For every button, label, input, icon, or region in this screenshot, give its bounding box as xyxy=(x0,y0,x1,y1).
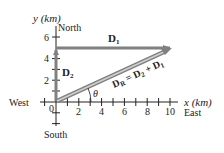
north-label: North xyxy=(58,22,81,33)
x-tick-2: 2 xyxy=(76,106,81,117)
y-axis-label: y (km) xyxy=(32,12,61,25)
x-tick-8: 8 xyxy=(145,106,150,117)
south-label: South xyxy=(44,129,67,140)
d1-label: D1 xyxy=(108,32,120,46)
y-tick-2: 2 xyxy=(44,75,49,86)
d2-label: D2 xyxy=(62,66,74,80)
x-tick-4: 4 xyxy=(99,106,104,117)
vector-diagram: y (km) North 6 4 2 West 0 2 4 6 8 10 x (… xyxy=(0,0,224,153)
x-tick-10: 10 xyxy=(165,106,175,117)
y-tick-4: 4 xyxy=(44,53,49,64)
west-label: West xyxy=(9,97,29,108)
origin-label: 0 xyxy=(49,103,54,114)
x-tick-6: 6 xyxy=(122,106,127,117)
east-label: East xyxy=(184,107,201,118)
angle-arc xyxy=(88,88,91,102)
y-tick-6: 6 xyxy=(44,32,49,43)
vector-dr xyxy=(57,48,172,101)
theta-label: θ xyxy=(93,88,98,99)
